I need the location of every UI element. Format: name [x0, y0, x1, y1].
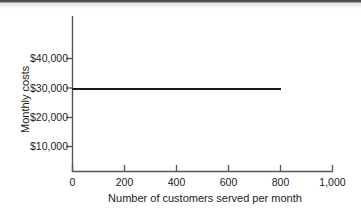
x-tick-label-1000: 1,000 [313, 177, 353, 188]
y-axis-ticks [66, 59, 72, 147]
fixed-cost-line-chart: $40,000 $30,000 $20,000 $10,000 0 200 40… [0, 0, 361, 217]
y-axis-title: Monthly costs [20, 66, 31, 133]
y-tick-label-10000: $10,000 [24, 141, 68, 152]
x-axis-title: Number of customers served per month [85, 193, 325, 204]
x-tick-label-0: 0 [53, 177, 93, 188]
chart-screenshot: $40,000 $30,000 $20,000 $10,000 0 200 40… [0, 0, 361, 217]
x-tick-label-200: 200 [105, 177, 145, 188]
x-tick-label-800: 800 [261, 177, 301, 188]
x-tick-label-600: 600 [209, 177, 249, 188]
x-tick-label-400: 400 [157, 177, 197, 188]
y-tick-label-40000: $40,000 [24, 53, 68, 64]
